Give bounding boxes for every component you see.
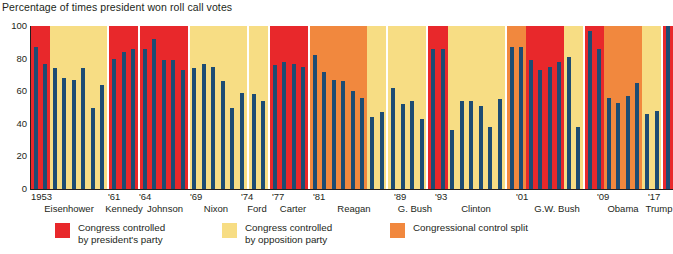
bar-slot xyxy=(109,26,119,189)
bar-slot xyxy=(545,26,555,189)
bar xyxy=(43,64,47,190)
bar xyxy=(261,101,265,189)
bar xyxy=(252,94,256,189)
president-axis-label: Nixon xyxy=(204,203,228,214)
legend-item-pres[interactable]: Congress controlled by president's party xyxy=(55,222,165,245)
bar xyxy=(666,26,670,189)
bar xyxy=(391,88,395,189)
bar xyxy=(479,106,483,189)
bar xyxy=(370,117,374,189)
legend-swatch-pres xyxy=(55,223,70,238)
bar-slot xyxy=(438,26,448,189)
bar xyxy=(469,101,473,189)
legend-label-split: Congressional control split xyxy=(413,222,528,234)
bar xyxy=(332,80,336,189)
presidency-bar-group xyxy=(507,26,583,189)
bar xyxy=(162,60,166,189)
presidency-bar-group xyxy=(249,26,268,189)
bar xyxy=(351,91,355,189)
bar xyxy=(401,104,405,189)
bar-slot xyxy=(564,26,574,189)
president-axis-label: Trump xyxy=(645,203,672,214)
bar-slot xyxy=(119,26,129,189)
bar xyxy=(635,83,639,189)
bar-slot xyxy=(339,26,349,189)
bar xyxy=(313,55,317,189)
bar-slot xyxy=(159,26,169,189)
bar-slot xyxy=(298,26,308,189)
bar-slot xyxy=(218,26,228,189)
presidency-bar-group xyxy=(310,26,386,189)
bar xyxy=(626,96,630,189)
presidency-bar-group xyxy=(109,26,138,189)
bar-slot xyxy=(417,26,427,189)
bar-series xyxy=(31,26,673,189)
bar-slot xyxy=(457,26,467,189)
y-axis: 100806040200 xyxy=(0,26,31,189)
presidency-bar-group xyxy=(31,26,107,189)
bar-slot xyxy=(190,26,200,189)
bar-slot xyxy=(41,26,51,189)
bar-slot xyxy=(554,26,564,189)
bar-slot xyxy=(663,26,673,189)
bar xyxy=(122,52,126,189)
bar xyxy=(557,62,561,189)
bar-slot xyxy=(320,26,330,189)
y-tick-label: 80 xyxy=(16,54,27,64)
year-tick-label: '69 xyxy=(190,191,202,202)
president-axis-label: G.W. Bush xyxy=(534,203,579,214)
bar xyxy=(616,103,620,189)
year-tick-label: '17 xyxy=(648,191,660,202)
bar xyxy=(282,62,286,189)
bar-slot xyxy=(467,26,477,189)
year-tick-label: '01 xyxy=(516,191,528,202)
bar xyxy=(143,49,147,189)
bar-slot xyxy=(258,26,268,189)
bar xyxy=(341,81,345,189)
presidency-bar-group xyxy=(585,26,661,189)
bar xyxy=(519,47,523,189)
bar-slot xyxy=(633,26,643,189)
bar-slot xyxy=(169,26,179,189)
year-tick-label: '81 xyxy=(313,191,325,202)
bar xyxy=(538,70,542,189)
bar xyxy=(221,81,225,189)
bar xyxy=(431,49,435,189)
year-tick-label: '64 xyxy=(139,191,151,202)
bar-slot xyxy=(507,26,517,189)
president-axis-label: Johnson xyxy=(147,203,183,214)
year-tick-label: '09 xyxy=(597,191,609,202)
legend-label-pres: Congress controlled by president's party xyxy=(78,222,165,245)
bar-slot xyxy=(31,26,41,189)
bar xyxy=(588,31,592,189)
president-axis-label: G. Bush xyxy=(398,203,432,214)
presidency-bar-group xyxy=(428,26,504,189)
bar xyxy=(576,127,580,189)
bar-slot xyxy=(448,26,458,189)
bar xyxy=(81,68,85,189)
bar-slot xyxy=(69,26,79,189)
bar-slot xyxy=(249,26,259,189)
bar-slot xyxy=(652,26,662,189)
president-axis-label: Obama xyxy=(607,203,638,214)
bar-slot xyxy=(535,26,545,189)
legend-label-opp: Congress controlled by opposition party xyxy=(245,222,332,245)
y-tick-label: 100 xyxy=(11,21,27,31)
bar xyxy=(230,108,234,190)
bar xyxy=(211,67,215,189)
bar-slot xyxy=(237,26,247,189)
bar-slot xyxy=(614,26,624,189)
plot-area xyxy=(31,26,673,189)
bar xyxy=(202,64,206,190)
bar-slot xyxy=(348,26,358,189)
legend-item-split[interactable]: Congressional control split xyxy=(390,222,528,238)
bar-slot xyxy=(50,26,60,189)
bar xyxy=(548,67,552,189)
legend-item-opp[interactable]: Congress controlled by opposition party xyxy=(222,222,332,245)
bar xyxy=(112,59,116,189)
bar-slot xyxy=(178,26,188,189)
bar-slot xyxy=(585,26,595,189)
presidency-bar-group xyxy=(270,26,308,189)
bar xyxy=(420,119,424,189)
year-tick-label: '77 xyxy=(272,191,284,202)
